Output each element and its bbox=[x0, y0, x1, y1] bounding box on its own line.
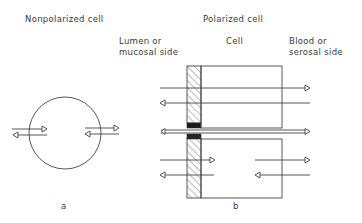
upper-cell-body bbox=[201, 66, 282, 128]
arrow-head-icon bbox=[85, 131, 90, 137]
arrow-head-icon bbox=[160, 172, 165, 178]
arrow-head-icon bbox=[42, 126, 47, 132]
arrow-head-icon bbox=[255, 172, 260, 178]
arrow-head-icon bbox=[114, 125, 119, 131]
polarized-cell bbox=[160, 66, 310, 198]
apical-membrane-lower bbox=[187, 138, 201, 198]
lower-cell-body bbox=[201, 139, 282, 198]
apical-membrane-upper bbox=[187, 66, 201, 123]
paracellular-pathway-arrow bbox=[161, 129, 310, 135]
nonpolarized-cell bbox=[12, 97, 119, 169]
tight-junction-upper bbox=[187, 123, 201, 128]
transcellular-absorption-arrow bbox=[160, 85, 310, 91]
arrow-head-icon bbox=[160, 100, 165, 106]
right-influx-arrow bbox=[85, 131, 119, 137]
right-efflux-arrow bbox=[85, 125, 119, 131]
arrow-head-icon bbox=[210, 157, 215, 163]
arrow-head-icon bbox=[13, 132, 18, 138]
arrow-head-icon bbox=[305, 85, 310, 91]
arrow-head-icon bbox=[305, 157, 310, 163]
tight-junction-lower bbox=[187, 134, 201, 139]
transcellular-secretion-arrow bbox=[160, 100, 310, 106]
arrow-head-icon bbox=[305, 129, 310, 135]
left-efflux-arrow bbox=[13, 132, 47, 138]
arrow-head-icon bbox=[161, 129, 165, 135]
basolateral-exit-arrow bbox=[255, 157, 310, 163]
cell-transport-diagram bbox=[0, 0, 362, 223]
basolateral-entry-arrow bbox=[255, 172, 310, 178]
